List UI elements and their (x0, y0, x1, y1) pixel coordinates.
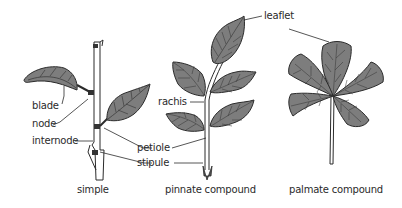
leaf-illustrations (0, 0, 402, 208)
label-internode: internode (32, 135, 78, 147)
caption-simple: simple (77, 184, 109, 196)
label-rachis: rachis (158, 96, 187, 108)
caption-pinnate-compound: pinnate compound (165, 184, 256, 196)
label-blade: blade (32, 100, 59, 112)
label-leaflet: leaflet (264, 10, 294, 22)
label-stipule: stipule (137, 157, 169, 169)
palmate-compound-plant (289, 29, 384, 164)
label-node: node (32, 118, 56, 130)
caption-palmate-compound: palmate compound (289, 184, 383, 196)
leaf-diagram: blade node internode petiole stipule rac… (0, 0, 402, 208)
label-petiole: petiole (137, 142, 170, 154)
